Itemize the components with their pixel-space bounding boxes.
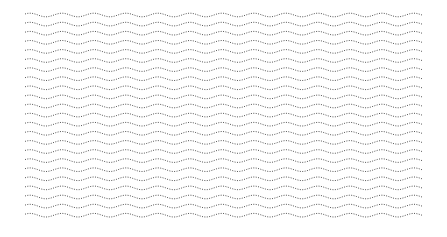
- wavy-line: [25, 104, 422, 108]
- wavy-line: [25, 186, 422, 190]
- wavy-line: [25, 86, 422, 90]
- wavy-line: [25, 177, 422, 181]
- wavy-line: [25, 113, 422, 117]
- wavy-line: [25, 41, 422, 45]
- wavy-line: [25, 168, 422, 172]
- wavy-line: [25, 159, 422, 163]
- wavy-line: [25, 150, 422, 154]
- wavy-line: [25, 22, 422, 26]
- wavy-line: [25, 50, 422, 54]
- wavy-line: [25, 195, 422, 199]
- wavy-dotted-pattern: [0, 0, 447, 237]
- wavy-line: [25, 13, 422, 17]
- wavy-line: [25, 95, 422, 99]
- wavy-line: [25, 122, 422, 126]
- wavy-line: [25, 141, 422, 145]
- wavy-line: [25, 213, 422, 217]
- wavy-line: [25, 31, 422, 35]
- wavy-line: [25, 132, 422, 136]
- wavy-line: [25, 68, 422, 72]
- wavy-line: [25, 77, 422, 81]
- wavy-line: [25, 59, 422, 63]
- wavy-line: [25, 204, 422, 208]
